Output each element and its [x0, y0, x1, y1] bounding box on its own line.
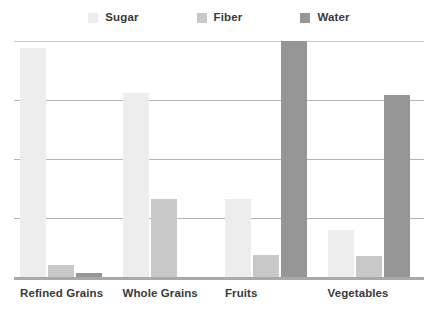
bar-chart: Sugar Fiber Water Refined Grains Whole G…: [0, 0, 438, 317]
bar-group: [219, 41, 322, 277]
legend-swatch-icon: [197, 13, 207, 23]
legend-item-sugar[interactable]: Sugar: [88, 12, 138, 24]
legend-label-water: Water: [317, 12, 349, 24]
legend-item-water[interactable]: Water: [300, 12, 349, 24]
bar-sugar-fruits[interactable]: [225, 199, 251, 277]
plot-area: [14, 41, 424, 277]
category-label-vegetables: Vegetables: [322, 285, 425, 305]
category-label-whole-grains: Whole Grains: [117, 285, 220, 305]
legend-label-fiber: Fiber: [214, 12, 243, 24]
legend-swatch-icon: [300, 13, 310, 23]
legend-label-sugar: Sugar: [105, 12, 138, 24]
bars-layer: [14, 41, 424, 277]
bar-fiber-refined-grains[interactable]: [48, 265, 74, 277]
bar-fiber-fruits[interactable]: [253, 255, 279, 277]
bar-fiber-vegetables[interactable]: [356, 256, 382, 277]
bar-sugar-refined-grains[interactable]: [20, 48, 46, 277]
bar-fiber-whole-grains[interactable]: [151, 199, 177, 277]
bar-water-fruits[interactable]: [281, 41, 307, 277]
bar-water-refined-grains[interactable]: [76, 273, 102, 277]
bar-group: [117, 41, 220, 277]
chart-legend: Sugar Fiber Water: [0, 0, 438, 36]
bar-sugar-whole-grains[interactable]: [123, 93, 149, 277]
category-label-refined-grains: Refined Grains: [14, 285, 117, 305]
category-axis-labels: Refined Grains Whole Grains Fruits Veget…: [14, 285, 424, 305]
bar-group: [14, 41, 117, 277]
category-label-fruits: Fruits: [219, 285, 322, 305]
legend-swatch-icon: [88, 13, 98, 23]
legend-item-fiber[interactable]: Fiber: [197, 12, 243, 24]
bar-sugar-vegetables[interactable]: [328, 230, 354, 277]
bar-water-vegetables[interactable]: [384, 95, 410, 277]
x-axis-line: [14, 277, 424, 280]
bar-group: [322, 41, 425, 277]
